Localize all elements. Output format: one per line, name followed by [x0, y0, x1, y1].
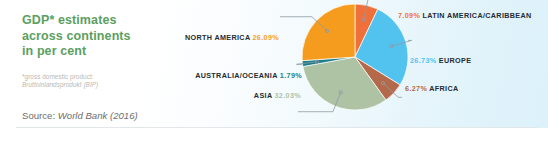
callout-latin-america-value: 7.09% [398, 11, 420, 20]
callout-asia-name: ASIA [254, 91, 272, 100]
callout-asia: ASIA 32.03% [254, 91, 301, 100]
bottom-margin [0, 128, 548, 141]
callout-australia-oceania-name: AUSTRALIA/OCEANIA [195, 71, 277, 80]
source-prefix: Source: [22, 110, 55, 121]
callout-asia-value: 32.03% [275, 91, 301, 100]
source-reference: World Bank (2016) [58, 110, 138, 121]
callout-latin-america-name: LATIN AMERICA/CARIBBEAN [423, 11, 532, 20]
callout-europe: 26.73% EUROPE [410, 56, 471, 65]
callout-north-america: NORTH AMERICA 26.09% [185, 33, 279, 42]
callout-latin-america: 7.09% LATIN AMERICA/CARIBBEAN [398, 11, 532, 20]
callout-north-america-value: 26.09% [253, 33, 279, 42]
callout-australia-oceania-value: 1.79% [280, 71, 302, 80]
source-credit: Source: World Bank (2016) [22, 110, 138, 121]
callout-africa-name: AFRICA [429, 84, 458, 93]
callout-europe-value: 26.73% [410, 56, 436, 65]
callout-africa: 6.27% AFRICA [405, 84, 458, 93]
callout-australia-oceania: AUSTRALIA/OCEANIA 1.79% [195, 71, 302, 80]
gdp-continents-infographic: GDP* estimates across continents in per … [0, 0, 548, 141]
callout-europe-name: EUROPE [439, 56, 471, 65]
callout-north-america-name: NORTH AMERICA [185, 33, 250, 42]
pie-slice-group [302, 4, 408, 110]
callout-africa-value: 6.27% [405, 84, 427, 93]
